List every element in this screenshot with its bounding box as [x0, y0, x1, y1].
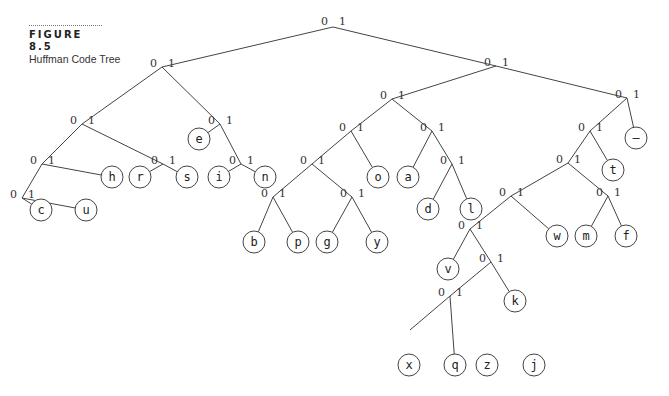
tree-edge-100010 — [332, 197, 352, 232]
huffman-tree: 0101010101010101010101010101010101010101… — [0, 0, 669, 396]
leaf-symbol: v — [444, 262, 451, 276]
tree-edge-1 — [333, 27, 496, 66]
edge-label-0: 0 — [150, 57, 157, 70]
edge-label-1: 1 — [226, 114, 233, 127]
leaf-node: w — [546, 225, 568, 247]
leaf-symbol: r — [136, 170, 143, 184]
tree-edge-10 — [392, 66, 496, 99]
leaf-node: h — [101, 166, 123, 188]
edge-label-1: 1 — [339, 15, 346, 28]
leaf-symbol: t — [609, 163, 616, 177]
leaf-node: g — [316, 231, 338, 253]
edge-label-1: 1 — [28, 188, 35, 201]
leaf-symbol: i — [215, 170, 222, 184]
edge-label-0: 0 — [440, 154, 447, 167]
leaf-symbol: y — [373, 235, 380, 249]
leaf-symbol: q — [451, 358, 458, 372]
leaf-symbol: — — [632, 131, 640, 145]
edge-label-1: 1 — [574, 153, 581, 166]
tree-edge-100000 — [258, 197, 273, 232]
leaf-symbol: x — [405, 358, 412, 372]
edge-label-1: 1 — [502, 56, 509, 69]
edge-label-1: 1 — [614, 186, 621, 199]
tree-edge-1001 — [351, 131, 372, 168]
leaf-symbol: u — [82, 203, 89, 217]
edge-label-0: 0 — [151, 154, 158, 167]
leaf-symbol: f — [622, 229, 629, 243]
leaf-node: q — [444, 354, 466, 376]
leaf-symbol: m — [582, 229, 589, 243]
edge-label-1: 1 — [169, 154, 176, 167]
tree-edge-110001 — [511, 196, 549, 229]
edge-label-0: 0 — [596, 186, 603, 199]
edge-label-0: 0 — [261, 187, 268, 200]
edge-label-1: 1 — [357, 121, 364, 134]
leaf-symbol: e — [195, 132, 202, 146]
edge-label-0: 0 — [556, 153, 563, 166]
edge-label-0: 0 — [321, 15, 328, 28]
leaf-node: n — [254, 166, 276, 188]
leaf-symbol: w — [553, 229, 561, 243]
edge-label-1: 1 — [458, 154, 465, 167]
edge-label-1: 1 — [517, 186, 524, 199]
edge-label-0: 0 — [339, 121, 346, 134]
edge-label-1: 1 — [48, 154, 55, 167]
leaf-symbol: z — [483, 358, 490, 372]
leaf-node: s — [176, 166, 198, 188]
tree-edge-111 — [627, 98, 634, 127]
tree-edge-110000100 — [410, 296, 450, 330]
leaf-node: x — [398, 354, 420, 376]
leaf-node: t — [602, 159, 624, 181]
leaf-symbol: c — [37, 203, 44, 217]
tree-edge-110011 — [608, 196, 621, 226]
edge-label-0: 0 — [499, 186, 506, 199]
edge-label-1: 1 — [88, 114, 95, 127]
leaf-symbol: b — [250, 235, 257, 249]
edge-label-1: 1 — [596, 121, 603, 134]
edge-label-0: 0 — [340, 187, 347, 200]
edge-label-0: 0 — [208, 114, 215, 127]
leaf-symbol: g — [323, 235, 330, 249]
edge-label-1: 1 — [318, 154, 325, 167]
edge-label-1: 1 — [476, 219, 483, 232]
leaf-node: b — [243, 231, 265, 253]
leaf-node: u — [75, 199, 97, 221]
edge-label-1: 1 — [633, 88, 640, 101]
leaf-symbol: s — [183, 170, 190, 184]
leaf-node: d — [417, 198, 439, 220]
leaf-node: r — [129, 166, 151, 188]
edge-label-0: 0 — [578, 121, 585, 134]
tree-edge-100011 — [352, 197, 372, 232]
leaf-node: a — [397, 166, 419, 188]
leaf-symbol: j — [530, 358, 537, 372]
edge-label-1: 1 — [497, 252, 504, 265]
edge-label-0: 0 — [70, 114, 77, 127]
leaf-node: m — [575, 225, 597, 247]
leaf-symbol: k — [511, 294, 519, 308]
leaf-node: j — [523, 354, 545, 376]
leaf-symbol: o — [374, 170, 381, 184]
edge-label-0: 0 — [229, 154, 236, 167]
tree-edge-1101 — [590, 131, 607, 161]
tree-edge-11 — [496, 66, 627, 98]
edge-label-0: 0 — [300, 154, 307, 167]
tree-edge-11000011 — [491, 262, 509, 292]
leaf-node: o — [367, 166, 389, 188]
tree-edge-100001 — [273, 197, 293, 232]
edge-label-0: 0 — [380, 89, 387, 102]
tree-edge-1100000 — [453, 229, 470, 259]
tree-edge-10111 — [452, 164, 467, 199]
tree-edge-0 — [162, 27, 333, 67]
leaf-node: k — [504, 290, 526, 312]
edge-label-0: 0 — [10, 188, 17, 201]
leaf-symbol: h — [108, 170, 115, 184]
edge-label-0: 0 — [30, 154, 37, 167]
edge-label-1: 1 — [438, 121, 445, 134]
leaf-node: f — [615, 225, 637, 247]
edge-label-0: 0 — [458, 219, 465, 232]
tree-edge-1010 — [413, 131, 432, 167]
tree-edge-110000101 — [450, 296, 454, 354]
edge-label-0: 0 — [479, 252, 486, 265]
leaf-symbol: p — [294, 235, 301, 249]
leaf-node: z — [476, 354, 498, 376]
